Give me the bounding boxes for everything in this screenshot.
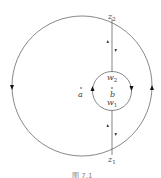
arrow-up-lower-left-icon [107,124,110,127]
arrow-down-inner-right-icon [130,86,134,91]
arrow-up-upper-left-icon [107,40,110,43]
arrow-down-outer-left-icon [10,85,14,90]
point-a [80,87,82,89]
arrow-down-lower-right-icon [115,133,118,136]
label-w2: w2 [107,73,117,83]
arrow-up-inner-left-icon [91,86,95,91]
contour-diagram: z2 w2 a b w1 z1 图 7.1 [0,0,161,178]
label-w1: w1 [107,98,117,108]
label-z2: z2 [107,12,116,22]
point-b [111,87,113,89]
label-z1: z1 [107,155,116,165]
arrow-up-outer-right-icon [150,85,154,90]
label-a: a [78,90,83,99]
figure-caption: 图 7.1 [72,172,92,178]
arrow-down-upper-right-icon [115,49,118,52]
